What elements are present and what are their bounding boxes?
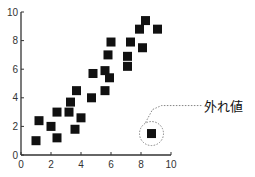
y-tick-label: 6 [12, 64, 18, 75]
data-point [104, 50, 113, 59]
y-tick-label: 10 [7, 7, 19, 18]
x-tick-label: 8 [138, 159, 144, 170]
outlier-label: 外れ値 [204, 99, 243, 114]
data-point [71, 125, 80, 134]
x-tick-label: 2 [48, 159, 54, 170]
x-tick-label: 6 [108, 159, 114, 170]
data-point [72, 86, 81, 95]
x-tick-label: 0 [18, 159, 24, 170]
y-tick-label: 4 [12, 92, 18, 103]
data-point [35, 116, 44, 125]
data-point [107, 38, 116, 47]
outlier-point [147, 129, 156, 138]
data-point [87, 93, 96, 102]
data-point [141, 16, 150, 25]
y-tick-label: 2 [12, 121, 18, 132]
data-point [101, 86, 110, 95]
data-point [65, 108, 74, 117]
data-point [77, 113, 86, 122]
y-tick-label: 8 [12, 35, 18, 46]
data-point [123, 62, 132, 71]
x-tick-label: 10 [165, 159, 177, 170]
data-point [126, 38, 135, 47]
annotations: 外れ値 [140, 99, 243, 146]
data-point [89, 69, 98, 78]
data-point [123, 52, 132, 61]
data-point [53, 108, 62, 117]
data-point [105, 73, 114, 82]
data-point [66, 98, 75, 107]
data-point [47, 122, 56, 131]
leader-line [146, 106, 202, 123]
x-tick-label: 4 [78, 159, 84, 170]
data-point [153, 25, 162, 34]
data-point [138, 43, 147, 52]
data-point [32, 136, 41, 145]
data-point [53, 133, 62, 142]
scatter-chart: 02468100246810 外れ値 [0, 0, 255, 177]
data-point [135, 25, 144, 34]
